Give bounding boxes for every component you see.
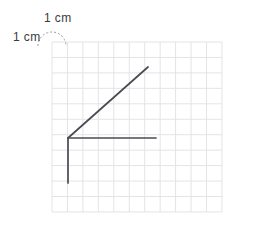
centimetre-grid	[52, 42, 222, 212]
grid-unit-label-left: 1 cm	[13, 30, 41, 44]
diagonal-ray-up-right	[68, 67, 148, 138]
grid-unit-label-top: 1 cm	[44, 11, 72, 25]
geometry-figure: 1 cm 1 cm	[0, 0, 269, 228]
